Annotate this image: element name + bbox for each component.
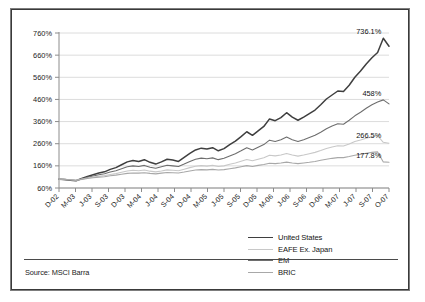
x-axis-tick-label: M-05 [191, 192, 209, 210]
y-axis-tick-label: 760% [33, 29, 52, 38]
x-axis-tick-label: D-05 [241, 192, 258, 209]
y-axis-tick-label: 160% [33, 161, 52, 170]
y-axis-tick-label: 460% [33, 95, 52, 104]
legend-label: United States [278, 233, 322, 242]
y-axis-tick-label: 360% [33, 117, 52, 126]
x-axis-tick-label: S-03 [93, 192, 110, 209]
series-line-em [59, 100, 389, 181]
legend-swatch [248, 237, 273, 238]
x-axis-tick-label: M-04 [125, 192, 143, 210]
legend-divider [24, 259, 398, 260]
y-axis-tick-label: 260% [33, 139, 52, 148]
x-axis-tick-label: J-06 [275, 192, 291, 208]
y-axis-tick-label: 60% [37, 184, 52, 193]
legend-item-united-states: United States [248, 232, 388, 244]
x-axis-tick-label: M-06 [257, 192, 275, 210]
x-axis-tick-label: O-07 [373, 192, 391, 210]
data-label: 458% [362, 89, 381, 98]
legend-item-em: EM [248, 255, 388, 267]
y-axis-tick-label: 660% [33, 51, 52, 60]
x-axis-tick-label: S-04 [159, 192, 176, 209]
legend-item-bric: BRIC [248, 267, 388, 279]
series-line-bric [59, 38, 389, 180]
legend-swatch [248, 249, 273, 250]
x-axis-tick-label: J-04 [143, 192, 159, 208]
legend-label: EM [278, 256, 289, 265]
x-axis-tick-label: S-06 [291, 192, 308, 209]
x-axis-tick-label: D-03 [109, 192, 126, 209]
data-label: 266.5% [356, 131, 381, 140]
source-note: Source: MSCI Barra [25, 268, 89, 277]
x-axis-tick-label: D-06 [307, 192, 324, 209]
data-label: 177.8% [356, 151, 381, 160]
x-axis-tick-label: M-07 [323, 192, 341, 210]
legend-swatch [248, 272, 273, 273]
legend-swatch [248, 260, 273, 261]
x-axis-tick-label: M-03 [59, 192, 77, 210]
chart-frame: 60%160%260%360%460%560%660%760%D-02M-03J… [11, 9, 409, 290]
data-label: 736.1% [356, 27, 381, 36]
chart-legend: United StatesEAFE Ex. JapanEMBRIC [248, 232, 388, 278]
x-axis-tick-label: S-05 [225, 192, 242, 209]
x-axis-tick-label: J-05 [209, 192, 225, 208]
x-axis-tick-label: J-07 [341, 192, 357, 208]
y-axis-tick-label: 560% [33, 73, 52, 82]
x-axis-tick-label: D-02 [43, 192, 60, 209]
legend-label: EAFE Ex. Japan [278, 245, 332, 254]
x-axis-tick-label: J-03 [77, 192, 93, 208]
legend-item-eafe-ex-japan: EAFE Ex. Japan [248, 244, 388, 256]
x-axis-tick-label: S-07 [357, 192, 374, 209]
x-axis-tick-label: D-04 [175, 192, 192, 209]
legend-label: BRIC [278, 268, 296, 277]
